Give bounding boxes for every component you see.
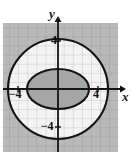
coordinate-plane-svg xyxy=(0,0,132,161)
tick-label-x-positive-4: 4 xyxy=(93,88,99,100)
tick-label-x-negative-4: −4 xyxy=(9,88,21,100)
y-axis-arrow xyxy=(55,16,62,22)
graph-figure: y x 4 −4 4 −4 xyxy=(0,0,132,161)
x-axis-label: x xyxy=(122,90,129,103)
y-axis-label: y xyxy=(49,7,55,20)
tick-label-y-negative-4: −4 xyxy=(41,120,53,132)
tick-label-y-positive-4: 4 xyxy=(51,34,57,46)
